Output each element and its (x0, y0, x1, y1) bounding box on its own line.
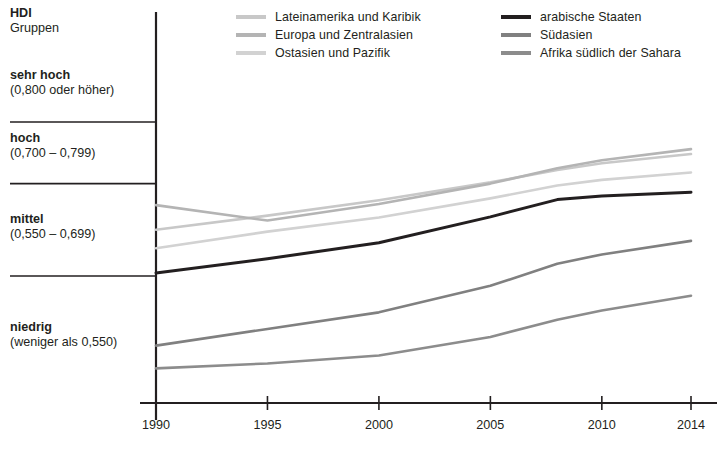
plot-svg: 199019952000200520102014 (0, 0, 717, 450)
series-line-5 (156, 296, 691, 369)
gridlines (10, 122, 156, 276)
x-axis-ticks: 199019952000200520102014 (142, 396, 705, 432)
x-tick-label: 1990 (142, 418, 170, 432)
data-series (156, 149, 691, 368)
series-line-2 (156, 173, 691, 249)
hdi-trend-chart: HDI Gruppen sehr hoch (0,800 oder höher)… (0, 0, 717, 450)
plot-area: 199019952000200520102014 (0, 0, 717, 450)
series-line-0 (156, 154, 691, 230)
series-line-4 (156, 241, 691, 346)
x-tick-label: 2000 (365, 418, 393, 432)
series-line-3 (156, 192, 691, 273)
x-tick-label: 2010 (588, 418, 616, 432)
x-tick-label: 1995 (253, 418, 281, 432)
x-tick-label: 2014 (677, 418, 705, 432)
x-tick-label: 2005 (476, 418, 504, 432)
